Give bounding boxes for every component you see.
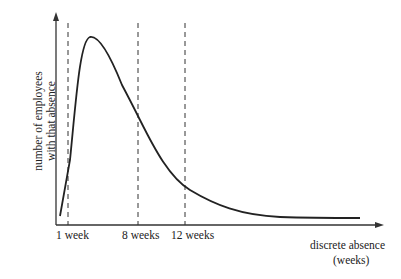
x-axis-label-line1: discrete absence: [310, 239, 385, 251]
x-axis-arrow-icon: [375, 222, 384, 228]
y-axis-arrow-icon: [53, 12, 59, 21]
tick-12-weeks: 12 weeks: [171, 229, 214, 241]
x-axis-label-line2: (weeks): [333, 254, 369, 266]
tick-8-weeks: 8 weeks: [122, 229, 159, 241]
reference-lines: [68, 23, 185, 225]
y-axis-label: number of employees with that absence: [32, 36, 58, 206]
tick-1-week: 1 week: [56, 229, 89, 241]
y-label-line2: with that absence: [45, 36, 58, 206]
y-label-line1: number of employees: [32, 36, 45, 206]
distribution-curve: [60, 37, 360, 218]
